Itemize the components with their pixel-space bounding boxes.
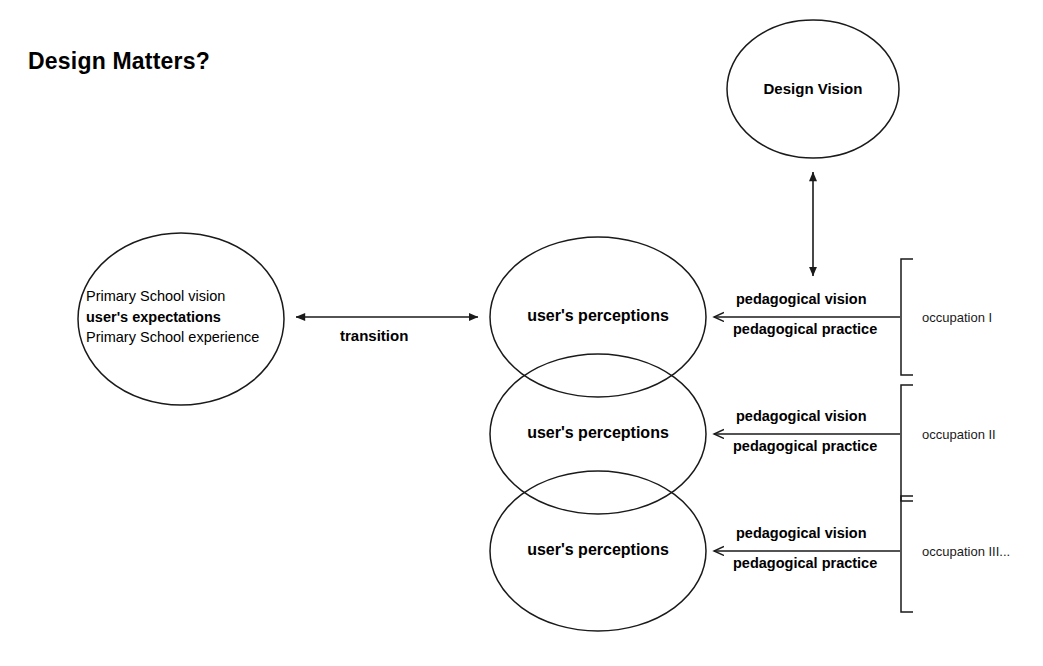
pedagogical-practice-label-2: pedagogical practice	[733, 438, 877, 454]
perceptions-label-2: user's perceptions	[508, 424, 688, 442]
occupation-label-1: occupation I	[922, 310, 992, 325]
left-ellipse-line-2: user's expectations	[86, 307, 259, 328]
diagram-canvas: Design Matters? Design Vision Primary Sc…	[0, 0, 1043, 666]
pedagogical-vision-label-3: pedagogical vision	[736, 525, 867, 541]
design-vision-label: Design Vision	[723, 80, 903, 97]
page-title: Design Matters?	[28, 48, 210, 75]
left-ellipse-text: Primary School vision user's expectation…	[86, 286, 259, 348]
pedagogical-vision-label-1: pedagogical vision	[736, 291, 867, 307]
occupation-label-2: occupation II	[922, 427, 996, 442]
transition-label: transition	[340, 327, 408, 344]
perceptions-label-3: user's perceptions	[508, 541, 688, 559]
left-ellipse-line-3: Primary School experience	[86, 327, 259, 348]
occupation-bracket-2	[901, 385, 913, 501]
pedagogical-practice-label-1: pedagogical practice	[733, 321, 877, 337]
pedagogical-vision-label-2: pedagogical vision	[736, 408, 867, 424]
occupation-bracket-3	[901, 496, 913, 612]
left-ellipse-line-1: Primary School vision	[86, 286, 259, 307]
pedagogical-practice-label-3: pedagogical practice	[733, 555, 877, 571]
occupation-label-3: occupation III...	[922, 544, 1010, 559]
occupation-bracket-1	[901, 259, 913, 375]
perceptions-label-1: user's perceptions	[508, 307, 688, 325]
